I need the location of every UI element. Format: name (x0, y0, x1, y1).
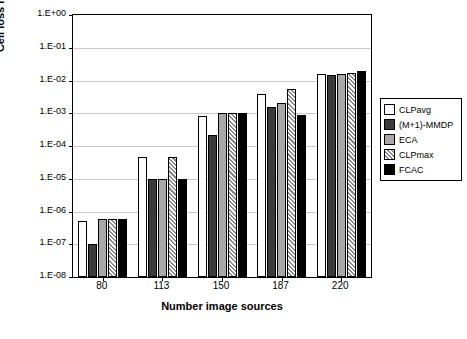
legend-item-fcac: FCAC (384, 162, 458, 177)
y-axis-tick-label: 1.E-02 (39, 75, 66, 84)
y-axis-tick (69, 277, 73, 278)
x-axis-title: Number image sources (72, 300, 372, 312)
bar-clpmax-113 (168, 157, 177, 277)
x-axis-tick-label: 220 (320, 280, 360, 292)
legend-item-eca: ECA (384, 132, 458, 147)
legend-label: FCAC (399, 165, 424, 175)
bar-clpmax-150 (228, 113, 237, 277)
bar-fcac-220 (357, 71, 366, 277)
bar--m-1-mmdp-113 (148, 179, 157, 277)
bar--m-1-mmdp-187 (267, 107, 276, 277)
legend-swatch (384, 119, 395, 130)
bar-clpmax-187 (287, 89, 296, 277)
y-axis-tick-labels: 1.E+001.E-011.E-021.E-031.E-041.E-051.E-… (0, 0, 72, 339)
bar-fcac-113 (178, 179, 187, 277)
y-axis-tick (69, 48, 73, 49)
x-axis-tick-label: 187 (261, 280, 301, 292)
legend-swatch (384, 164, 395, 175)
y-axis-tick (69, 81, 73, 82)
x-axis-tick-label: 113 (141, 280, 181, 292)
x-axis-tick-label: 80 (82, 280, 122, 292)
bar-clpavg-113 (138, 157, 147, 277)
bar-clpmax-220 (347, 73, 356, 277)
x-axis-tick-label: 150 (201, 280, 241, 292)
bar-fcac-150 (238, 113, 247, 277)
grid-line (73, 48, 371, 49)
y-axis-tick-label: 1.E-07 (39, 238, 66, 247)
bar-clpavg-187 (257, 94, 266, 277)
legend-label: (M+1)-MMDP (399, 120, 453, 130)
bar-clpavg-80 (78, 221, 87, 277)
bar-eca-220 (337, 74, 346, 277)
bar-eca-187 (277, 103, 286, 277)
y-axis-tick-label: 1.E-01 (39, 42, 66, 51)
chart-root: 1.E+001.E-011.E-021.E-031.E-041.E-051.E-… (0, 0, 467, 339)
bar--m-1-mmdp-150 (208, 135, 217, 277)
y-axis-tick-label: 1.E+00 (37, 9, 66, 18)
y-axis-tick (69, 146, 73, 147)
y-axis-tick (69, 113, 73, 114)
y-axis-tick (69, 15, 73, 16)
y-axis-tick (69, 212, 73, 213)
legend-item--m-1-mmdp: (M+1)-MMDP (384, 117, 458, 132)
y-axis-title: Cell loss ratio (0, 0, 6, 96)
bar-fcac-80 (118, 219, 127, 277)
y-axis-tick (69, 179, 73, 180)
y-axis-tick-label: 1.E-03 (39, 107, 66, 116)
bar-eca-80 (98, 219, 107, 277)
legend-label: ECA (399, 135, 418, 145)
legend-label: CLPavg (399, 105, 431, 115)
bar-clpavg-150 (198, 116, 207, 277)
y-axis-tick-label: 1.E-05 (39, 173, 66, 182)
x-axis-tick-labels: 80113150187220 (72, 280, 372, 294)
bar-eca-113 (158, 179, 167, 277)
plot-area (72, 14, 372, 278)
y-axis-tick (69, 244, 73, 245)
bar--m-1-mmdp-80 (88, 244, 97, 277)
bar--m-1-mmdp-220 (327, 75, 336, 277)
bar-clpmax-80 (108, 219, 117, 277)
legend-item-clpavg: CLPavg (384, 102, 458, 117)
y-axis-tick-label: 1.E-08 (39, 271, 66, 280)
bar-eca-150 (218, 113, 227, 277)
legend-swatch (384, 149, 395, 160)
bar-clpavg-220 (317, 74, 326, 277)
legend-swatch (384, 134, 395, 145)
y-axis-tick-label: 1.E-06 (39, 206, 66, 215)
legend: CLPavg(M+1)-MMDPECACLPmaxFCAC (380, 98, 462, 181)
legend-swatch (384, 104, 395, 115)
bar-fcac-187 (297, 115, 306, 277)
y-axis-tick-label: 1.E-04 (39, 140, 66, 149)
legend-label: CLPmax (399, 150, 434, 160)
legend-item-clpmax: CLPmax (384, 147, 458, 162)
